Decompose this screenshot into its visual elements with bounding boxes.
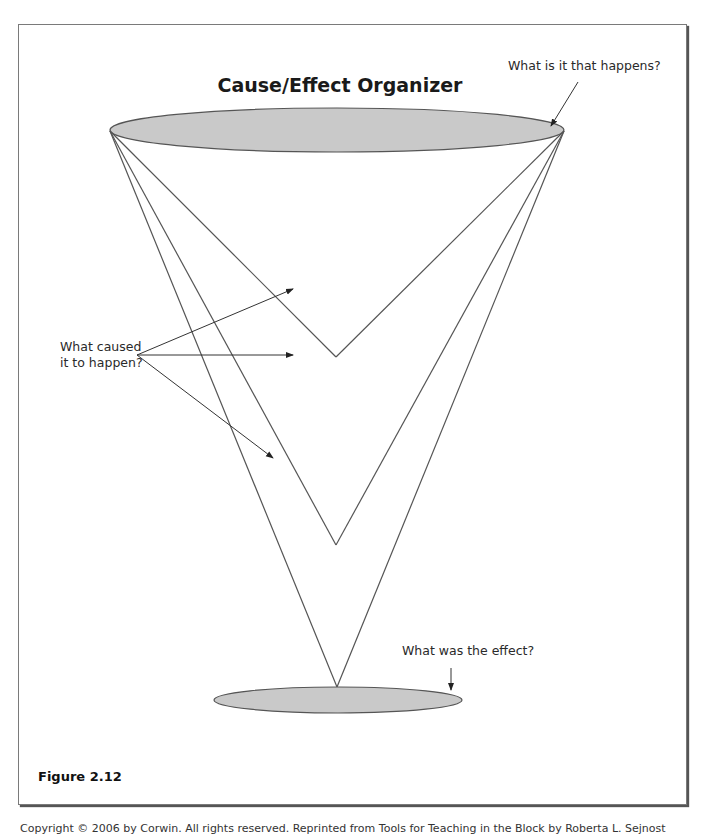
annotation-cause-line1: What caused [60,339,141,354]
figure-caption: Figure 2.12 [38,769,122,784]
arrow-what-happens-icon [551,82,578,126]
cause-arrows [137,289,293,458]
bottom-ellipse-effect [214,687,462,713]
copyright-footer: Copyright © 2006 by Corwin. All rights r… [20,822,709,835]
annotation-effect: What was the effect? [402,643,534,658]
annotation-what-happens: What is it that happens? [508,58,661,73]
cone-line-right-inner [336,131,564,357]
cone-line-left-middle [110,131,336,545]
cone-line-right-outer [337,131,564,687]
top-ellipse-what-happens [110,108,564,152]
diagram-title: Cause/Effect Organizer [218,74,464,96]
cone-line-right-middle [336,131,564,545]
annotation-cause-line2: it to happen? [60,355,143,370]
cone-line-left-inner [110,131,336,357]
cone-line-left-outer [110,131,337,687]
arrow-cause-upper-icon [137,289,293,355]
cone-lines [110,131,564,687]
arrow-cause-lower-icon [137,355,273,458]
